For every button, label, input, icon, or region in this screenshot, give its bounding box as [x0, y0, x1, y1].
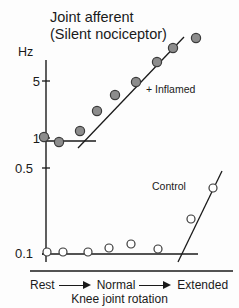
data-point-control-5	[154, 245, 162, 253]
data-point-control-6	[187, 215, 195, 223]
arrow-right-icon-1	[59, 279, 93, 291]
data-point-control-1	[59, 248, 67, 256]
data-point-inflamed-6	[152, 57, 161, 66]
data-point-control-2	[84, 248, 92, 256]
x-step-rest: Rest	[30, 278, 55, 292]
series-control	[42, 171, 222, 262]
data-point-inflamed-7	[168, 43, 177, 52]
x-axis-caption: Knee joint rotation	[0, 292, 239, 306]
data-point-inflamed-0	[39, 132, 48, 141]
data-point-inflamed-2	[75, 126, 84, 135]
y-tick-label-0-1: 0.1	[3, 246, 33, 261]
control-data-points	[43, 184, 217, 256]
y-tick-label-0-5: 0.5	[3, 161, 33, 176]
chart-title-line1: Joint afferent	[50, 10, 134, 25]
chart-title-line2: (Silent nociceptor)	[50, 27, 167, 42]
inflamed-series-label: + Inflamed	[146, 84, 195, 95]
data-point-inflamed-4	[110, 90, 119, 99]
x-step-normal: Normal	[97, 278, 136, 292]
y-tick-label-5: 5	[10, 74, 40, 89]
y-axis-unit-label: Hz	[18, 46, 33, 59]
data-point-inflamed-5	[131, 77, 140, 86]
x-axis-steps: Rest Normal Extended	[30, 277, 235, 293]
arrow-right-icon-2	[139, 279, 173, 291]
data-point-inflamed-8	[191, 33, 200, 42]
data-point-inflamed-1	[54, 137, 63, 146]
data-point-control-0	[43, 248, 51, 256]
chart-canvas	[0, 0, 239, 308]
x-step-extended: Extended	[177, 278, 228, 292]
y-tick-label-1: 1	[10, 131, 40, 146]
data-point-inflamed-3	[92, 106, 101, 115]
control-series-label: Control	[152, 181, 186, 192]
data-point-control-7	[209, 184, 217, 192]
data-point-control-3	[105, 244, 113, 252]
data-point-control-4	[127, 240, 135, 248]
